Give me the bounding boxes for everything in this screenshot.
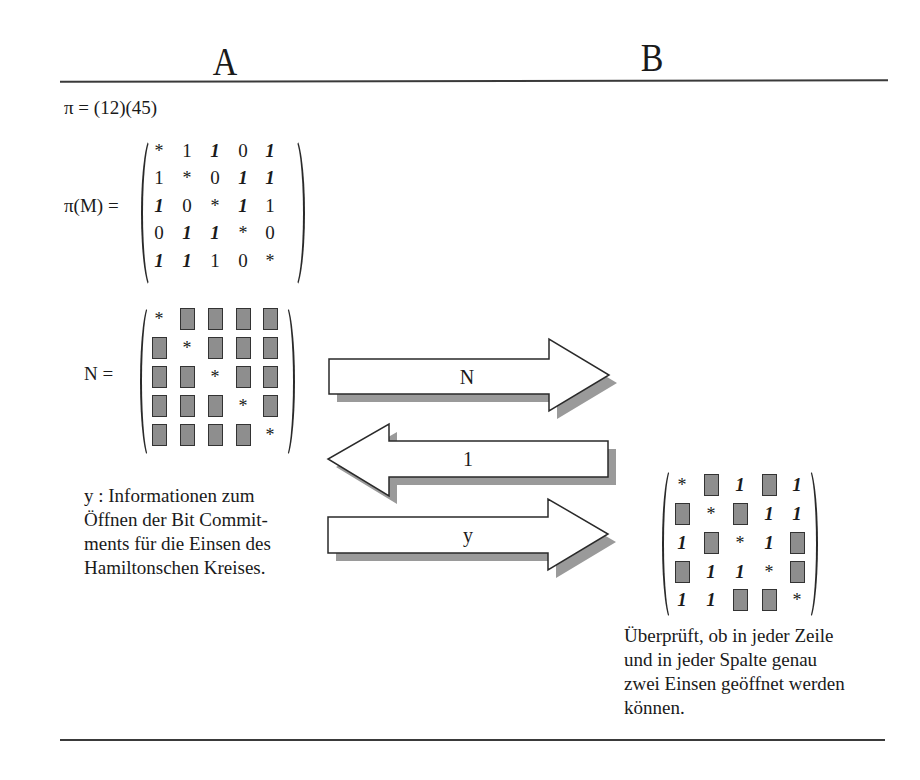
diagonal-star: * [669, 472, 695, 498]
matrix-entry: 1 [698, 559, 724, 585]
check-description-line: und in jeder Spalte genau [624, 648, 845, 672]
sealed-commitment-box [762, 589, 777, 611]
sealed-commitment-box [733, 589, 748, 611]
diagonal-star: * [698, 501, 724, 527]
message-label-y: y [448, 523, 488, 547]
matrix-entry: 1 [727, 559, 753, 585]
diagonal-star: * [727, 530, 753, 556]
matrix-entry: 1 [756, 501, 782, 527]
matrix-entry: 1 [698, 587, 724, 613]
matrix-entry: 1 [669, 530, 695, 556]
matrix-entry: 1 [669, 587, 695, 613]
sealed-commitment-box [704, 532, 719, 554]
sealed-commitment-box [675, 561, 690, 583]
check-description-line: können. [624, 696, 845, 720]
matrix-entry: 1 [784, 472, 810, 498]
diagonal-star: * [756, 559, 782, 585]
bottom-divider [60, 739, 885, 741]
message-label-1: 1 [448, 447, 488, 471]
sealed-commitment-box [704, 474, 719, 496]
matrix-entry: 1 [756, 530, 782, 556]
check-description-line: zwei Einsen geöffnet werden [624, 672, 845, 696]
matrix-entry: 1 [784, 501, 810, 527]
check-description: Überprüft, ob in jeder Zeile und in jede… [624, 624, 845, 720]
message-label-n: N [447, 365, 487, 389]
diagonal-star: * [784, 587, 810, 613]
check-description-line: Überprüft, ob in jeder Zeile [624, 624, 845, 648]
sealed-commitment-box [733, 503, 748, 525]
sealed-commitment-box [675, 503, 690, 525]
sealed-commitment-box [790, 532, 805, 554]
sealed-commitment-box [790, 561, 805, 583]
sealed-commitment-box [762, 474, 777, 496]
matrix-entry: 1 [727, 472, 753, 498]
